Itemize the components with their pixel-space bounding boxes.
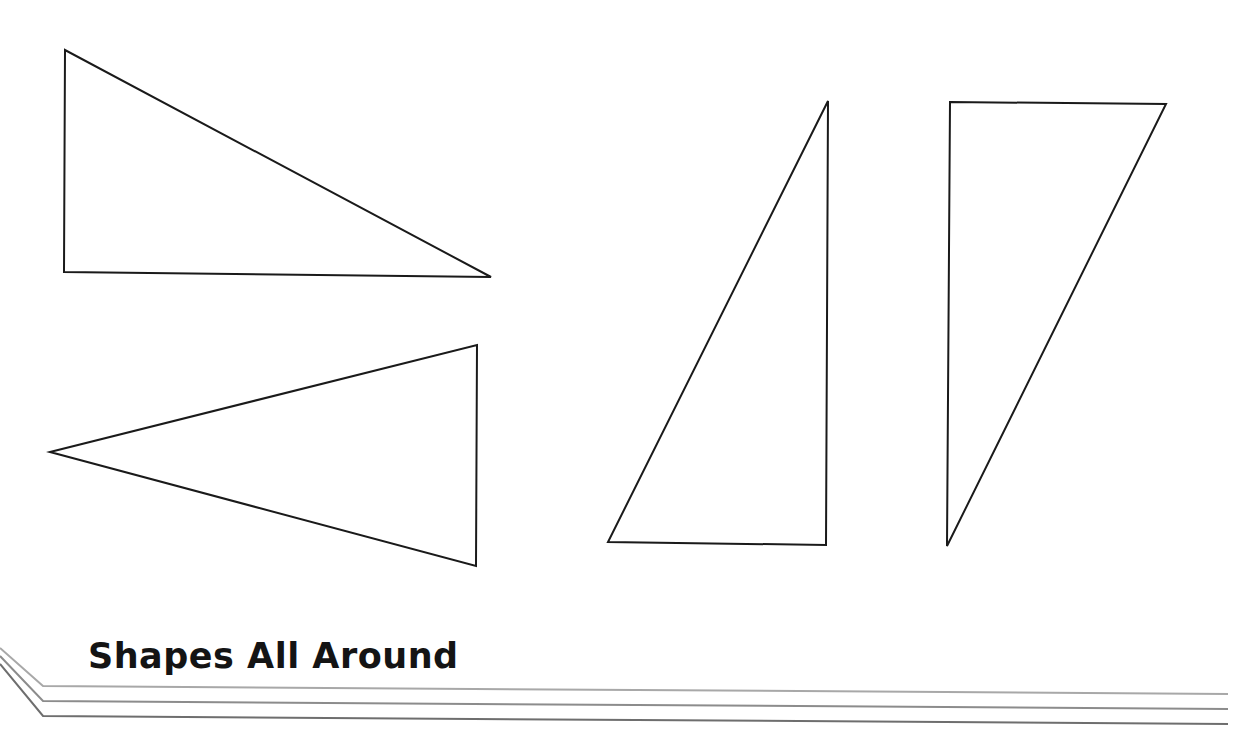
triangle-2	[50, 345, 477, 566]
footer-title: Shapes All Around	[88, 636, 459, 676]
triangle-3	[608, 101, 828, 545]
triangle-4	[947, 102, 1166, 546]
worksheet-page: Shapes All Around	[0, 0, 1249, 754]
triangle-1	[64, 50, 491, 277]
